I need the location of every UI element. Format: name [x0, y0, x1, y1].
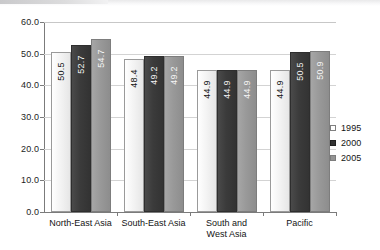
x-axis-category-label: North-East Asia — [44, 218, 117, 229]
y-axis-tick-label: 0.0 — [26, 207, 39, 217]
x-axis-tick-mark — [117, 212, 118, 216]
bar-2005-1[interactable]: 54.7 — [91, 39, 111, 212]
bar-value-label: 50.9 — [315, 61, 324, 79]
bar-2000-1[interactable]: 52.7 — [71, 45, 91, 212]
legend-swatch-1995 — [330, 125, 336, 131]
bar-value-label: 50.5 — [56, 62, 65, 80]
bar-value-label: 48.4 — [129, 69, 138, 87]
legend-label-2005: 2005 — [341, 153, 361, 163]
top-edge-artifact — [0, 0, 380, 6]
bar-group: 50.552.754.7 — [44, 22, 117, 212]
bar-2000-2[interactable]: 49.2 — [144, 56, 164, 212]
x-axis-category-label: Pacific — [263, 218, 336, 229]
bar-1995-3[interactable]: 44.9 — [197, 70, 217, 212]
bar-value-label: 44.9 — [275, 80, 284, 98]
x-axis-category-label: South and West Asia — [190, 218, 263, 240]
bar-group-bars: 50.552.754.7 — [51, 22, 111, 212]
y-axis-tick-label: 60.0 — [21, 17, 39, 27]
legend-swatch-2005 — [330, 155, 336, 161]
chart-legend: 199520002005 — [330, 120, 361, 165]
bar-value-label: 50.5 — [295, 62, 304, 80]
legend-label-2000: 2000 — [341, 138, 361, 148]
bar-2005-4[interactable]: 50.9 — [310, 51, 330, 212]
bar-2005-2[interactable]: 49.2 — [164, 56, 184, 212]
bar-value-label: 44.9 — [222, 80, 231, 98]
y-axis-tick-label: 20.0 — [21, 144, 39, 154]
bar-value-label: 49.2 — [169, 67, 178, 85]
y-axis-tick-label: 40.0 — [21, 80, 39, 90]
legend-swatch-2000 — [330, 140, 336, 146]
x-axis-tick-mark — [263, 212, 264, 216]
bar-value-label: 52.7 — [76, 55, 85, 73]
bar-1995-4[interactable]: 44.9 — [270, 70, 290, 212]
bar-1995-1[interactable]: 50.5 — [51, 52, 71, 212]
legend-item-2005[interactable]: 2005 — [330, 150, 361, 165]
legend-label-1995: 1995 — [341, 123, 361, 133]
y-axis-tick-mark — [40, 212, 44, 213]
bar-group: 44.950.550.9 — [263, 22, 336, 212]
bar-2000-3[interactable]: 44.9 — [217, 70, 237, 212]
bar-value-label: 44.9 — [242, 80, 251, 98]
y-axis-tick-label: 50.0 — [21, 49, 39, 59]
top-edge-artifact-dark — [0, 0, 108, 4]
bar-group: 44.944.944.9 — [190, 22, 263, 212]
bar-group-bars: 48.449.249.2 — [124, 22, 184, 212]
x-axis-tick-mark — [190, 212, 191, 216]
bar-value-label: 54.7 — [96, 49, 105, 67]
bar-2000-4[interactable]: 50.5 — [290, 52, 310, 212]
bar-group-bars: 44.944.944.9 — [197, 22, 257, 212]
bar-group: 48.449.249.2 — [117, 22, 190, 212]
bar-group-bars: 44.950.550.9 — [270, 22, 330, 212]
bar-1995-2[interactable]: 48.4 — [124, 59, 144, 212]
y-axis-tick-label: 30.0 — [21, 112, 39, 122]
bar-value-label: 44.9 — [202, 80, 211, 98]
x-axis-category-label: South-East Asia — [117, 218, 190, 229]
legend-item-2000[interactable]: 2000 — [330, 135, 361, 150]
bar-chart: 50.552.754.748.449.249.244.944.944.944.9… — [0, 0, 380, 250]
y-axis-tick-label: 10.0 — [21, 175, 39, 185]
bar-2005-3[interactable]: 44.9 — [237, 70, 257, 212]
bar-value-label: 49.2 — [149, 67, 158, 85]
legend-item-1995[interactable]: 1995 — [330, 120, 361, 135]
x-axis-tick-mark — [336, 212, 337, 216]
plot-area: 50.552.754.748.449.249.244.944.944.944.9… — [44, 22, 336, 212]
